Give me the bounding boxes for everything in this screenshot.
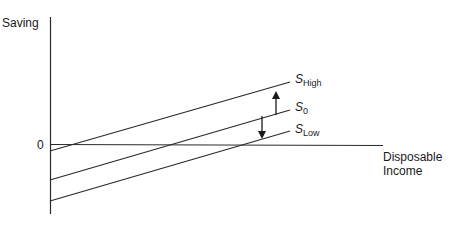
s-zero-symbol: S (295, 100, 303, 114)
s-high-subscript: High (303, 78, 322, 88)
s-high-symbol: S (295, 72, 303, 86)
x-axis (50, 145, 383, 146)
x-axis-label-line1: Disposable (383, 150, 442, 164)
s-zero-label: S0 (295, 100, 308, 115)
s-high-line (50, 82, 290, 151)
y-axis-label: Saving (2, 16, 39, 30)
s-low-line (50, 131, 290, 201)
s-zero-subscript: 0 (303, 106, 308, 116)
s-high-label: SHigh (295, 72, 322, 87)
s-low-label: SLow (295, 122, 320, 137)
x-axis-label-line2: Income (383, 164, 422, 178)
origin-label: 0 (37, 138, 44, 152)
s-low-symbol: S (295, 122, 303, 136)
s-low-subscript: Low (303, 128, 320, 138)
saving-function-diagram (0, 0, 449, 226)
